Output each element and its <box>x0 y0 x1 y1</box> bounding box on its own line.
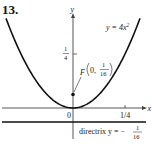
focus-y-denominator: 16 <box>100 70 107 77</box>
focus-right-paren <box>110 63 112 76</box>
x-axis-label: x <box>147 104 152 113</box>
y-tick-numerator: 1 <box>64 45 67 52</box>
problem-number: 13. <box>2 2 18 17</box>
focus-left-paren <box>87 63 89 76</box>
equation-label: y = 4x2 <box>105 22 130 32</box>
y-axis-label: y <box>70 5 75 14</box>
directrix-denominator: 16 <box>133 133 140 140</box>
origin-label: 0 <box>67 111 71 120</box>
focus-letter: F <box>79 68 85 77</box>
y-tick-denominator: 4 <box>64 54 68 61</box>
directrix-label: directrix y = − <box>79 127 126 136</box>
equation-text: y = 4x <box>105 23 127 32</box>
equation-exponent: 2 <box>127 22 130 28</box>
x-axis-arrow-icon <box>142 106 147 110</box>
focus-x-value: 0, <box>90 66 96 75</box>
parabola-diagram: 13. x y 1 4 0 1/4 y = 4x2 F 0, 1 16 dire… <box>0 0 152 144</box>
focus-leader-line <box>74 77 81 92</box>
focus-point <box>71 93 75 97</box>
x-tick-label: 1/4 <box>120 111 130 120</box>
directrix-numerator: 1 <box>136 124 139 131</box>
focus-y-numerator: 1 <box>102 61 105 68</box>
